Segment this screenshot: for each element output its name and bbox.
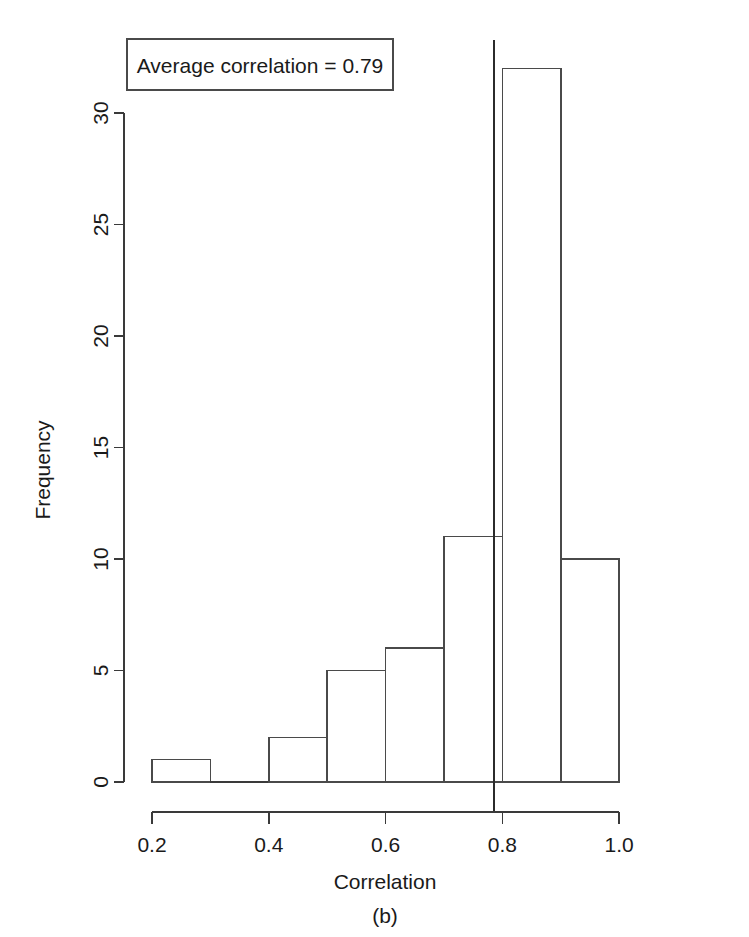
y-tick-label-5: 5 bbox=[89, 665, 112, 677]
x-tick-label-1.0: 1.0 bbox=[605, 833, 634, 856]
figure-background bbox=[0, 0, 749, 937]
x-tick-label-0.2: 0.2 bbox=[137, 833, 166, 856]
x-tick-label-0.8: 0.8 bbox=[488, 833, 517, 856]
histogram-bar-6 bbox=[502, 68, 560, 782]
x-tick-label-0.6: 0.6 bbox=[371, 833, 400, 856]
histogram-bar-2 bbox=[269, 737, 327, 782]
y-tick-label-30: 30 bbox=[89, 101, 112, 124]
histogram-bar-7 bbox=[561, 559, 619, 782]
y-tick-label-25: 25 bbox=[89, 213, 112, 236]
annotation-box: Average correlation = 0.79 bbox=[127, 39, 393, 90]
y-tick-label-20: 20 bbox=[89, 324, 112, 347]
histogram-bar-0 bbox=[152, 760, 210, 782]
histogram-bar-4 bbox=[386, 648, 444, 782]
histogram-bar-3 bbox=[327, 671, 385, 783]
x-axis-title: Correlation bbox=[334, 870, 437, 893]
annotation-text: Average correlation = 0.79 bbox=[137, 54, 384, 77]
y-tick-label-0: 0 bbox=[89, 776, 112, 788]
histogram-svg: 0 5 10 15 20 25 30 Frequency bbox=[0, 0, 749, 937]
y-tick-label-10: 10 bbox=[89, 547, 112, 570]
x-tick-label-0.4: 0.4 bbox=[254, 833, 284, 856]
histogram-figure: 0 5 10 15 20 25 30 Frequency bbox=[0, 0, 749, 937]
figure-caption: (b) bbox=[372, 904, 398, 927]
y-axis-title: Frequency bbox=[31, 420, 54, 520]
y-tick-label-15: 15 bbox=[89, 436, 112, 459]
